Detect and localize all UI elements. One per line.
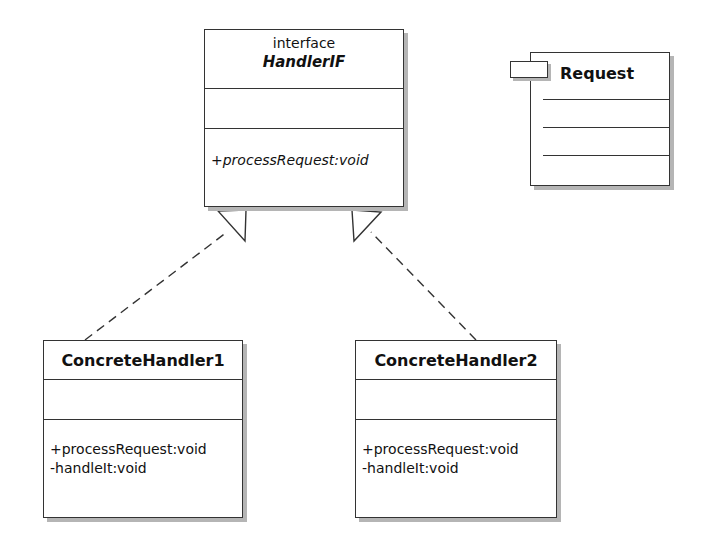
class-header: interface HandlerIF <box>205 30 403 89</box>
class-header: ConcreteHandler2 <box>356 341 556 380</box>
operations-compartment: +processRequest:void <box>205 129 403 170</box>
operation: +processRequest:void <box>356 440 556 459</box>
interface-handlerif[interactable]: interface HandlerIF +processRequest:void <box>204 29 404 207</box>
class-header: ConcreteHandler1 <box>44 341 242 380</box>
operation: +processRequest:void <box>205 151 403 170</box>
package-divider <box>543 99 670 100</box>
stereotype-label: interface <box>205 30 403 52</box>
package-divider <box>543 155 670 156</box>
attributes-compartment <box>44 380 242 420</box>
interface-name: HandlerIF <box>205 52 403 72</box>
operations-compartment: +processRequest:void -handleIt:void <box>44 420 242 478</box>
operation: -handleIt:void <box>356 459 556 478</box>
package-divider <box>543 127 670 128</box>
operation: -handleIt:void <box>44 459 242 478</box>
class-name: ConcreteHandler2 <box>356 341 556 371</box>
class-concretehandler1[interactable]: ConcreteHandler1 +processRequest:void -h… <box>43 340 243 518</box>
attributes-compartment <box>205 89 403 129</box>
realization-arrow-1 <box>85 210 246 340</box>
package-tab <box>510 61 548 78</box>
class-concretehandler2[interactable]: ConcreteHandler2 +processRequest:void -h… <box>355 340 557 518</box>
realization-arrow-2 <box>352 210 476 340</box>
operation: +processRequest:void <box>44 440 242 459</box>
hollow-triangle-icon <box>352 210 381 241</box>
package-name: Request <box>560 64 634 83</box>
operations-compartment: +processRequest:void -handleIt:void <box>356 420 556 478</box>
class-name: ConcreteHandler1 <box>44 341 242 371</box>
attributes-compartment <box>356 380 556 420</box>
